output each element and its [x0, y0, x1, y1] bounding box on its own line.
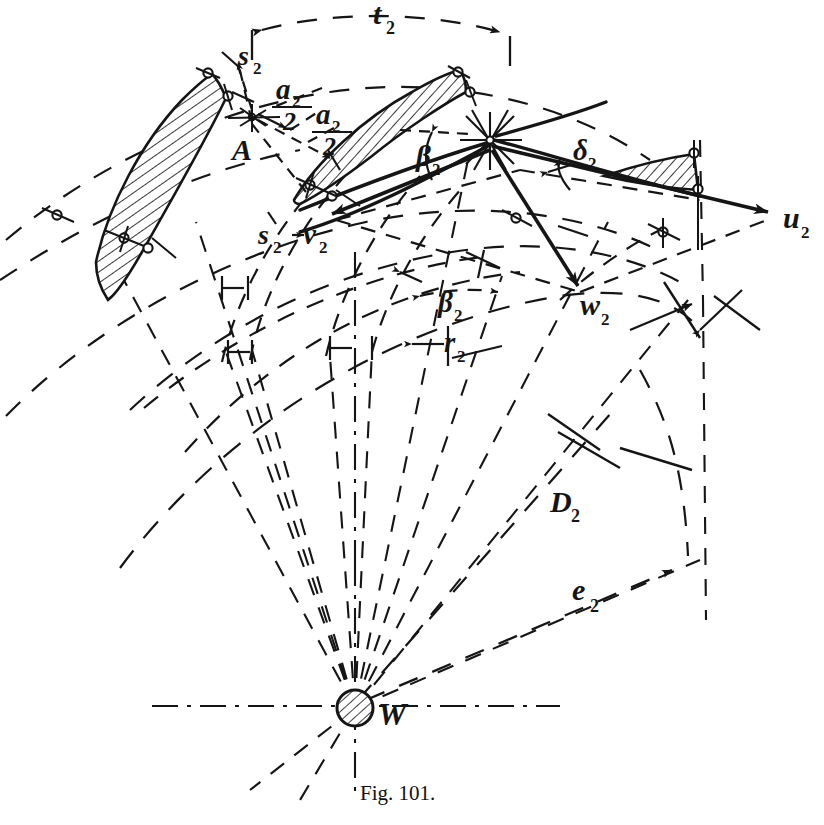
label-w2-main: w — [580, 288, 601, 321]
label-s2-top-main: s — [237, 40, 249, 71]
label-e2-main: e — [572, 573, 585, 606]
label-v2-sub: 2 — [319, 238, 328, 257]
label-u2-sub: 2 — [801, 223, 810, 242]
turbine-blade-velocity-diagram: t 2 s 2 a 2 2 a 2 2 A β 2 δ 2 u 2 s 2 — [0, 0, 824, 825]
label-hub-W: W — [378, 696, 409, 732]
label-D2-main: D — [549, 485, 572, 518]
label-a2-lower-num: a — [316, 98, 331, 130]
label-a2-upper-den: 2 — [282, 107, 296, 136]
hub-assembly — [337, 690, 373, 726]
label-u2-main: u — [783, 201, 800, 234]
label-w2-sub: 2 — [601, 310, 610, 329]
label-delta2-main: δ — [573, 134, 588, 166]
label-pitch-t2-sub: 2 — [386, 18, 395, 38]
figure-caption: Fig. 101. — [360, 781, 435, 805]
label-point-A: A — [230, 133, 252, 166]
label-beta2-blade-sub: 2 — [432, 160, 441, 179]
label-a2-lower-den: 2 — [322, 132, 336, 161]
hub-circle — [337, 690, 373, 726]
label-v2-main: v — [303, 218, 317, 250]
label-a2-upper-num: a — [276, 73, 291, 105]
apex-node-circle — [486, 136, 493, 143]
label-beta2-blade-main: β — [415, 140, 431, 172]
tick-a-4 — [228, 117, 280, 118]
label-beta2-flow-main: β — [437, 286, 453, 318]
node-left-root-inner — [143, 243, 152, 252]
label-e2-sub: 2 — [590, 596, 599, 616]
label-delta2-sub: 2 — [588, 154, 597, 173]
label-s2-top-sub: 2 — [253, 59, 262, 78]
label-s2-lower-sub: 2 — [273, 238, 282, 257]
label-r2-main: r — [444, 326, 456, 358]
label-D2-sub: 2 — [571, 506, 580, 526]
label-beta2-flow-sub: 2 — [454, 306, 463, 325]
figure-container: t 2 s 2 a 2 2 a 2 2 A β 2 δ 2 u 2 s 2 — [0, 0, 824, 825]
label-r2-sub: 2 — [457, 347, 466, 366]
label-s2-lower-main: s — [257, 219, 269, 250]
